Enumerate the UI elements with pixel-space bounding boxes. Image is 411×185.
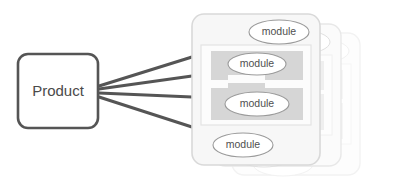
connector-lines-group: [99, 57, 192, 127]
connector-4: [99, 97, 192, 127]
module-card-front-group[interactable]: module module module module: [192, 14, 320, 165]
module-upper-label: module: [240, 57, 275, 69]
connector-3: [99, 93, 192, 97]
product-node-group[interactable]: Product: [18, 54, 98, 128]
diagram-canvas: module module module module modul: [0, 0, 411, 185]
diagram-svg: module module module module modul: [0, 0, 411, 185]
module-top-label: module: [262, 25, 297, 37]
product-label: Product: [32, 82, 85, 99]
module-bottom-label: module: [226, 138, 261, 150]
module-lower-label: module: [240, 97, 275, 109]
